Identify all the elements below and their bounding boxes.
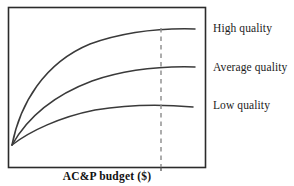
- legend-label-low-quality: Low quality: [213, 100, 270, 112]
- plot-frame: [9, 8, 206, 168]
- legend-label-average-quality: Average quality: [213, 62, 287, 74]
- x-axis-title: AC&P budget ($): [8, 170, 206, 182]
- figure-container: High quality Average quality Low quality…: [0, 0, 294, 186]
- legend-label-high-quality: High quality: [213, 23, 272, 35]
